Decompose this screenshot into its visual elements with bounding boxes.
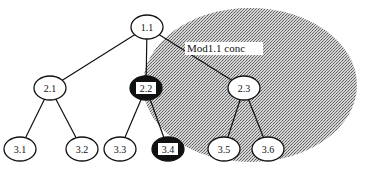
- tree-node-3-4[interactable]: 3.4: [152, 137, 184, 161]
- node-label: 2.2: [140, 83, 153, 94]
- concept-label: Mod1.1 conc: [187, 42, 245, 54]
- tree-node-2-3[interactable]: 2.3: [228, 76, 260, 100]
- tree-node-3-5[interactable]: 3.5: [208, 137, 240, 161]
- node-label: 3.5: [218, 144, 231, 155]
- tree-node-2-1[interactable]: 2.1: [34, 76, 66, 100]
- node-label: 3.6: [262, 144, 275, 155]
- node-label: 2.1: [44, 83, 57, 94]
- tree-node-3-6[interactable]: 3.6: [252, 137, 284, 161]
- node-label: 1.1: [141, 22, 154, 33]
- node-label: 3.4: [162, 144, 175, 155]
- tree-node-3-1[interactable]: 3.1: [4, 137, 36, 161]
- node-label: 3.3: [114, 144, 127, 155]
- node-label: 2.3: [238, 83, 251, 94]
- tree-node-3-2[interactable]: 3.2: [66, 137, 98, 161]
- tree-edge: [50, 27, 147, 88]
- node-label: 3.2: [76, 144, 89, 155]
- node-label: 3.1: [14, 144, 27, 155]
- tree-node-1-1[interactable]: 1.1: [131, 15, 163, 39]
- tree-node-2-2[interactable]: 2.2: [130, 76, 162, 100]
- tree-diagram: Mod1.1 conc 1.12.12.22.33.13.23.33.43.53…: [0, 0, 371, 173]
- tree-node-3-3[interactable]: 3.3: [104, 137, 136, 161]
